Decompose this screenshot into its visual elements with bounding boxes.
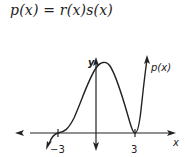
- tick-label-3: 3: [131, 144, 137, 155]
- x-axis-label: x: [172, 137, 179, 148]
- graph: y x p(x) −3 3: [0, 0, 185, 157]
- y-axis-label: y: [88, 57, 95, 68]
- x-axis-left-arrow-icon: [15, 130, 24, 136]
- curve-label: p(x): [150, 62, 171, 73]
- curve-p: [49, 60, 147, 144]
- tick-label-neg3: −3: [50, 144, 65, 155]
